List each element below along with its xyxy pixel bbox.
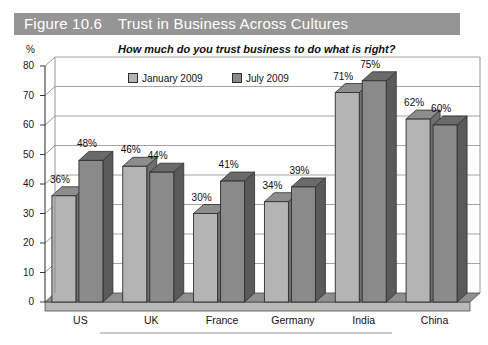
x-tick-label-uk: UK <box>116 314 187 326</box>
figure-caption <box>110 337 410 344</box>
bar-us-jul <box>79 151 113 302</box>
bottom-rule <box>100 332 392 334</box>
y-tick-label: 20 <box>8 237 34 248</box>
legend-item-january: January 2009 <box>128 73 203 84</box>
bar-india-jul <box>362 72 396 302</box>
bar-value-label: 34% <box>262 180 282 191</box>
plot-area: 80706050403020100 36%48%46%44%30%41%34%3… <box>0 0 488 345</box>
bar-value-label: 75% <box>360 59 380 70</box>
x-tick-label-france: France <box>187 314 258 326</box>
bar-value-label: 44% <box>148 150 168 161</box>
bar-value-label: 62% <box>404 97 424 108</box>
bar-value-label: 41% <box>219 159 239 170</box>
legend-label: July 2009 <box>246 73 289 84</box>
bar-value-label: 39% <box>289 165 309 176</box>
bar-value-label: 46% <box>121 144 141 155</box>
y-tick-label: 80 <box>8 60 34 71</box>
y-tick-label: 0 <box>8 296 34 307</box>
y-tick-label: 10 <box>8 267 34 278</box>
legend-label: January 2009 <box>142 73 203 84</box>
bar-germany-jul <box>291 178 325 302</box>
bar-china-jul <box>433 116 467 302</box>
legend-swatch-icon <box>232 73 242 83</box>
bar-value-label: 36% <box>50 174 70 185</box>
y-tick-label: 30 <box>8 208 34 219</box>
bar-france-jul <box>221 172 255 302</box>
bar-value-label: 60% <box>431 103 451 114</box>
legend-item-july: July 2009 <box>232 73 289 84</box>
figure-container: Figure 10.6 Trust in Business Across Cul… <box>0 0 488 345</box>
legend-swatch-icon <box>128 73 138 83</box>
y-tick-label: 50 <box>8 149 34 160</box>
bar-value-label: 30% <box>192 192 212 203</box>
bar-value-label: 71% <box>333 71 353 82</box>
bar-value-label: 48% <box>77 138 97 149</box>
bar-uk-jul <box>150 163 184 302</box>
x-tick-label-us: US <box>45 314 116 326</box>
chart-svg <box>0 0 488 345</box>
y-tick-label: 40 <box>8 178 34 189</box>
y-tick-label: 70 <box>8 90 34 101</box>
x-tick-label-china: China <box>399 314 470 326</box>
x-tick-label-germany: Germany <box>258 314 329 326</box>
y-tick-label: 60 <box>8 119 34 130</box>
x-tick-label-india: India <box>328 314 399 326</box>
